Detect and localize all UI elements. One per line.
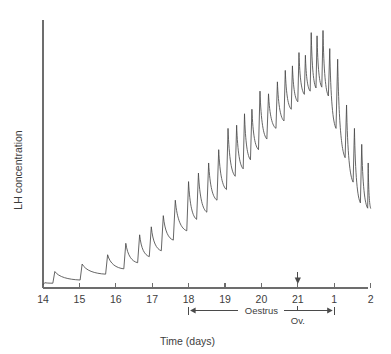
lh-concentration-chart: 141516171819202112OestrusOv.Time (days)L… — [0, 0, 391, 354]
axis-labels-group: 141516171819202112OestrusOv.Time (days)L… — [12, 130, 374, 347]
lh-concentration-curve — [43, 31, 371, 285]
y-axis-title: LH concentration — [12, 130, 24, 210]
x-axis-tick-label: 17 — [146, 293, 158, 305]
ovulation-arrow-head — [295, 278, 301, 285]
x-axis-tick-label: 16 — [110, 293, 122, 305]
x-axis-tick-label: 15 — [74, 293, 86, 305]
x-axis-tick-label: 14 — [37, 293, 49, 305]
oestrus-bracket-label: Oestrus — [245, 305, 279, 316]
data-curve-group — [43, 31, 371, 285]
x-axis-title: Time (days) — [160, 335, 215, 347]
ovulation-label: Ov. — [291, 315, 305, 326]
x-axis-tick-label: 20 — [256, 293, 268, 305]
x-axis-tick-label: 18 — [183, 293, 195, 305]
axes-group — [43, 20, 371, 288]
x-axis-tick-label: 2 — [368, 293, 374, 305]
x-axis-tick-label: 21 — [292, 293, 304, 305]
oestrus-bracket-arrow-right — [327, 307, 333, 313]
oestrus-bracket-arrow-left — [190, 307, 196, 313]
x-axis-tick-label: 1 — [331, 293, 337, 305]
x-axis-tick-label: 19 — [219, 293, 231, 305]
chart-canvas: 141516171819202112OestrusOv.Time (days)L… — [0, 0, 391, 354]
